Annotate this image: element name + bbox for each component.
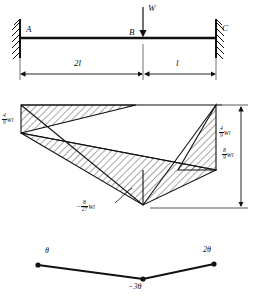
slope-label-left: θ — [45, 247, 49, 255]
moment-unit-left: Wl — [7, 117, 14, 123]
slope-label-middle: −3θ — [128, 283, 141, 291]
sagging-region — [21, 133, 216, 205]
moment-unit-right: Wl — [224, 130, 231, 136]
moment-label-sagging: − 8 27 Wl — [76, 200, 95, 212]
figure-svg — [0, 0, 259, 299]
beam-group — [12, 7, 224, 80]
slope-node-right — [211, 261, 216, 266]
slope-polyline — [38, 264, 214, 279]
moment-label-right: 4 9 Wl — [219, 126, 230, 138]
support-label-C: C — [222, 24, 228, 33]
beam-moment-figure: A C B W 2l l 4 9 Wl 4 9 Wl 8 9 Wl − 8 27… — [0, 0, 259, 299]
moment-label-left: 4 9 Wl — [2, 113, 13, 125]
slope-diagram-group — [35, 261, 216, 281]
slope-node-left — [35, 262, 40, 267]
moment-diagram-group — [21, 105, 248, 208]
slope-label-right: 2θ — [203, 246, 211, 254]
hogging-region-right — [178, 105, 216, 170]
load-label-W: W — [148, 4, 156, 13]
load-point-label-B: B — [129, 28, 135, 37]
moment-label-total: 8 9 Wl — [222, 148, 233, 160]
slope-node-middle — [140, 276, 145, 281]
span-label-l: l — [176, 59, 179, 68]
support-label-A: A — [26, 25, 32, 34]
span-label-2l: 2l — [74, 59, 81, 68]
moment-unit-total: Wl — [227, 152, 234, 158]
support-left — [12, 19, 20, 59]
sagging-unit: Wl — [88, 204, 95, 210]
